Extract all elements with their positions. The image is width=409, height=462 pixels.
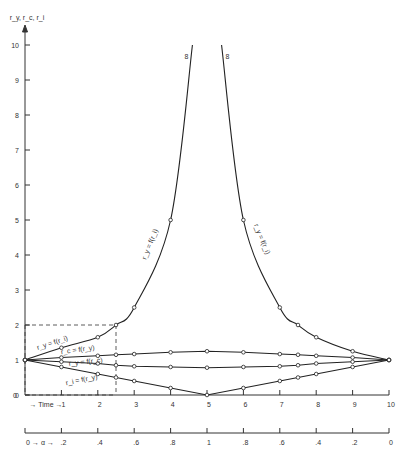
data-point-marker (278, 365, 282, 369)
data-point-marker (96, 335, 100, 339)
alpha-tick-label: .4 (97, 439, 103, 446)
x-tick-label: 8 (316, 401, 320, 408)
y-tick-label: 10 (11, 42, 19, 49)
series-curve (222, 45, 389, 360)
data-point-marker (387, 358, 391, 362)
data-point-marker (60, 365, 64, 369)
data-point-marker (132, 352, 136, 356)
x-origin-label: 0 (13, 392, 17, 399)
data-point-marker (278, 379, 282, 383)
curve-label-rc: r_c = f(r_y) (60, 344, 95, 357)
alpha-tick-label: .8 (242, 439, 248, 446)
data-point-marker (205, 349, 209, 353)
data-point-marker (278, 306, 282, 310)
data-point-marker (351, 360, 355, 364)
data-point-marker (296, 376, 300, 380)
data-point-marker (205, 393, 209, 397)
data-point-marker (314, 372, 318, 376)
time-axis-label: → Time → (29, 401, 62, 408)
data-point-marker (169, 365, 173, 369)
data-point-marker (114, 363, 118, 367)
chart: 012345678910r_y, r_c, r_i123456789100→ T… (0, 0, 409, 462)
data-point-marker (169, 218, 173, 222)
curve-label-left-upper: r_y = f(r_i) (140, 228, 159, 261)
data-point-marker (169, 351, 173, 355)
y-tick-label: 8 (15, 112, 19, 119)
x-tick-label: 4 (171, 401, 175, 408)
alpha-tick-label: .2 (352, 439, 358, 446)
x-tick-label: 7 (280, 401, 284, 408)
alpha-tick-label: .4 (315, 439, 321, 446)
data-point-marker (60, 356, 64, 360)
data-point-marker (132, 365, 136, 369)
curve-label-ry-low: r_y = f(r_c) (68, 356, 103, 368)
alpha-axis-label: 0 → α → (26, 439, 54, 446)
data-point-marker (114, 353, 118, 357)
x-tick-label: 3 (134, 401, 138, 408)
y-tick-label: 5 (15, 217, 19, 224)
data-point-marker (114, 323, 118, 327)
data-point-marker (60, 360, 64, 364)
labels: 012345678910r_y, r_c, r_i123456789100→ T… (10, 14, 395, 446)
y-tick-label: 9 (15, 77, 19, 84)
y-tick-label: 3 (15, 287, 19, 294)
data-point-marker (132, 306, 136, 310)
data-point-marker (278, 352, 282, 356)
data-point-marker (314, 362, 318, 366)
data-point-marker (314, 335, 318, 339)
y-axis-title: r_y, r_c, r_i (10, 14, 45, 22)
data-point-marker (296, 353, 300, 357)
data-point-marker (296, 323, 300, 327)
data-point-marker (314, 354, 318, 358)
x-tick-label: 2 (98, 401, 102, 408)
alpha-tick-label: .8 (170, 439, 176, 446)
y-axis-arrow-icon (23, 25, 28, 32)
alpha-tick-label: .2 (60, 439, 66, 446)
data-point-marker (351, 349, 355, 353)
alpha-tick-label: 0 (389, 439, 393, 446)
data-point-marker (351, 356, 355, 360)
data-point-marker (242, 386, 246, 390)
y-tick-label: 6 (15, 182, 19, 189)
data-point-marker (23, 358, 27, 362)
data-point-marker (169, 386, 173, 390)
x-tick-label: 9 (353, 401, 357, 408)
data-point-marker (296, 363, 300, 367)
data-point-marker (114, 376, 118, 380)
data-point-marker (132, 379, 136, 383)
alpha-tick-label: 1 (207, 439, 211, 446)
y-tick-label: 7 (15, 147, 19, 154)
axes (23, 25, 390, 433)
data-point-marker (242, 351, 246, 355)
asymptote-label-right: 8 (226, 53, 230, 60)
x-tick-label: 5 (207, 401, 211, 408)
asymptote-label-left: 8 (184, 53, 188, 60)
y-tick-label: 1 (15, 357, 19, 364)
y-tick-label: 4 (15, 252, 19, 259)
data-point-marker (242, 365, 246, 369)
alpha-tick-label: .6 (279, 439, 285, 446)
data-point-marker (205, 366, 209, 370)
y-tick-label: 2 (15, 322, 19, 329)
x-tick-label: 10 (387, 401, 395, 408)
curves (25, 45, 389, 395)
alpha-tick-label: .6 (133, 439, 139, 446)
data-point-marker (242, 218, 246, 222)
data-point-marker (351, 365, 355, 369)
curve-label-right-upper: r_y = f(r_i) (252, 223, 271, 256)
series-curve (25, 45, 192, 360)
x-tick-label: 6 (243, 401, 247, 408)
curve-label-ri: r_i = f(r_y) (65, 373, 98, 387)
